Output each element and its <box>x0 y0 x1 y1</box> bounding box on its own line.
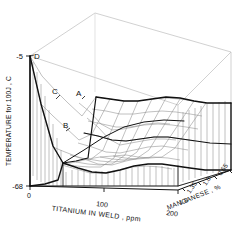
z-tick-label-top: -5 <box>16 52 23 61</box>
x-tick-label-100: 100 <box>96 200 109 208</box>
y-tick-1p0 <box>214 176 217 179</box>
label-b: B <box>63 121 68 130</box>
x-tick-label-0: 0 <box>27 192 31 199</box>
label-d: D <box>34 52 40 61</box>
label-a: A <box>76 89 82 98</box>
y-tick-label-0p65: 0.65 <box>216 162 229 177</box>
label-c: C <box>52 87 58 96</box>
x-axis-label: TITANIUM IN WELD , ppm <box>51 205 141 224</box>
z-tick-label-bottom: -68 <box>12 182 23 191</box>
z-axis-label: TEMPERATURE for 100J , C <box>5 76 12 166</box>
surface-plot-figure: -5 -68 TEMPERATURE for 100J , C 0 100 20… <box>0 0 236 231</box>
plot-canvas: -5 -68 TEMPERATURE for 100J , C 0 100 20… <box>0 0 236 231</box>
surface-mesh <box>30 56 225 186</box>
